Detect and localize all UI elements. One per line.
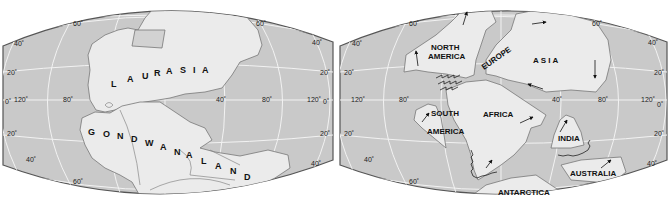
gondwanaland-letter: N <box>174 147 181 157</box>
lat-label-n20-east: 20˚ <box>654 69 664 76</box>
lon-label-w80: 80˚ <box>399 96 409 103</box>
pangaea-map: 60˚ 60˚ 40˚ 40˚ 20˚ 20˚ 0˚ 0˚ 20˚ 20˚ 40… <box>0 0 336 208</box>
lon-label-w120: 120˚ <box>351 96 365 103</box>
lat-label-n60-east: 60˚ <box>592 20 602 27</box>
south-america-label-line2: AMERICA <box>427 127 465 136</box>
antarctica-label: ANTARCTICA <box>498 188 550 197</box>
lat-label-n20: 20˚ <box>344 69 354 76</box>
gondwanaland-letter: N <box>117 131 124 141</box>
gondwanaland-letter: A <box>215 161 222 171</box>
laurasia-letter: A <box>202 65 209 75</box>
gondwanaland-letter: A <box>186 150 193 160</box>
lat-label-s20: 20˚ <box>7 130 17 137</box>
lat-label-n60: 60˚ <box>73 20 83 27</box>
gondwanaland-letter: G <box>88 127 95 137</box>
laurasia-letter: U <box>142 71 149 81</box>
lon-label-e80: 80˚ <box>598 96 608 103</box>
south-america-label-line1: SOUTH <box>431 109 459 118</box>
lat-label-n40-east: 40˚ <box>648 39 658 46</box>
lat-label-s40-east: 40˚ <box>647 160 657 167</box>
continental-drift-map-svg: NORTH AMERICA EUROPE A S I A AFRICA SOUT… <box>336 0 671 208</box>
laurasia-letter: S <box>180 65 186 75</box>
pangaea-map-svg: 60˚ 60˚ 40˚ 40˚ 20˚ 20˚ 0˚ 0˚ 20˚ 20˚ 40… <box>0 0 336 208</box>
lat-label-s60: 60˚ <box>409 178 419 185</box>
lat-label-s60: 60˚ <box>73 178 83 185</box>
india-label: INDIA <box>558 134 580 143</box>
lon-label-w120: 120˚ <box>14 96 28 103</box>
laurasia-letter: I <box>193 65 196 75</box>
lon-label-e40: 40˚ <box>216 96 226 103</box>
laurasia-letter: L <box>111 79 117 89</box>
lat-label-n20: 20˚ <box>7 69 17 76</box>
lat-label-n60: 60˚ <box>409 20 419 27</box>
asia-label: A S I A <box>533 56 558 65</box>
lat-label-n40: 40˚ <box>14 40 24 47</box>
lat-label-n60-east: 60˚ <box>256 20 266 27</box>
lat-label-s20-east: 20˚ <box>320 130 330 137</box>
lon-label-e80: 80˚ <box>262 96 272 103</box>
north-america-label-line1: NORTH <box>431 43 460 52</box>
gondwanaland-letter: N <box>230 166 237 176</box>
gondwanaland-letter: W <box>145 138 154 148</box>
lat-label-s40: 40˚ <box>364 156 374 163</box>
lon-label-e40: 40˚ <box>552 96 562 103</box>
lat-label-n40-east: 40˚ <box>312 39 322 46</box>
lon-label-e120: 120˚ <box>641 96 655 103</box>
gondwanaland-letter: D <box>131 134 138 144</box>
lat-label-eq: 0˚ <box>5 98 11 105</box>
lat-label-s40-east: 40˚ <box>311 160 321 167</box>
lat-label-s20: 20˚ <box>344 130 354 137</box>
lat-label-n20-east: 20˚ <box>320 69 330 76</box>
australia-label: AUSTRALIA <box>570 169 616 178</box>
greenland-block <box>132 30 165 48</box>
laurasia-letter: R <box>154 68 161 78</box>
lat-label-eq-east: 0˚ <box>323 98 329 105</box>
north-america-label-line2: AMERICA <box>428 52 466 61</box>
lat-label-s20-east: 20˚ <box>654 130 664 137</box>
africa-label: AFRICA <box>483 110 513 119</box>
gondwanaland-letter: D <box>244 172 251 182</box>
lat-label-n40: 40˚ <box>352 40 362 47</box>
continental-drift-map: NORTH AMERICA EUROPE A S I A AFRICA SOUT… <box>336 0 671 208</box>
lon-label-w80: 80˚ <box>63 96 73 103</box>
gondwanaland-letter: A <box>160 142 167 152</box>
lon-label-e120: 120˚ <box>307 96 321 103</box>
laurasia-letter: A <box>166 66 173 76</box>
gondwanaland-letter: L <box>201 156 207 166</box>
laurasia-letter: A <box>127 74 134 84</box>
gondwanaland-letter: O <box>103 129 110 139</box>
lat-label-s40: 40˚ <box>26 156 36 163</box>
lat-label-eq-east: 0˚ <box>657 101 663 108</box>
